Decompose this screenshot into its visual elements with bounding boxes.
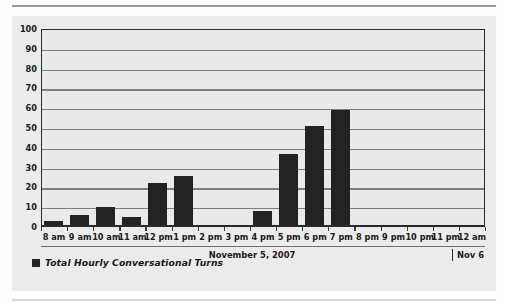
date-caption: November 5, 2007 [209, 250, 296, 260]
y-axis-tick-label: 100 [11, 25, 37, 33]
next-day-label: Nov 6 [457, 250, 484, 260]
bottom-divider-rule [12, 299, 496, 301]
bar [305, 126, 324, 227]
y-axis-tick-label: 80 [11, 64, 37, 72]
y-axis-tick-label: 60 [11, 104, 37, 112]
bars-layer [42, 30, 484, 227]
legend-swatch-icon [32, 259, 40, 267]
x-axis-tick-label: 8 pm [356, 230, 379, 244]
plot-panel [41, 29, 485, 227]
chart-footer: Total Hourly Conversational Turns Novemb… [12, 248, 496, 291]
x-axis-tick-label: 1 pm [173, 230, 196, 244]
top-divider-rule [12, 5, 496, 7]
y-axis-tick-label: 50 [11, 124, 37, 132]
bar [148, 183, 167, 227]
y-axis-tick-label: 30 [11, 163, 37, 171]
y-axis-tick-label: 70 [11, 84, 37, 92]
y-axis-tick-label: 40 [11, 144, 37, 152]
next-day-separator [452, 249, 453, 261]
chart-page: 1009080706050403020100 8 am9 am10 am11 a… [0, 0, 507, 304]
x-axis-tick-label: 8 am [43, 230, 66, 244]
x-axis-tick-label: 12 pm [144, 230, 173, 244]
x-axis-tick-label: 10 am [92, 230, 120, 244]
x-axis-tick-label: 5 pm [278, 230, 301, 244]
y-axis-tick-labels: 1009080706050403020100 [12, 29, 39, 227]
x-axis-tick-label: 3 pm [225, 230, 248, 244]
x-axis-tick-label: 6 pm [304, 230, 327, 244]
x-axis-tick-label: 11 am [118, 230, 146, 244]
bar-chart-figure: 1009080706050403020100 8 am9 am10 am11 a… [12, 16, 496, 291]
y-axis-tick-label: 0 [11, 223, 37, 231]
x-axis-tick-label: 9 am [69, 230, 92, 244]
x-axis-tick-label: 7 pm [330, 230, 353, 244]
x-axis-tick-label: 12 am [458, 230, 486, 244]
plot-area-wrapper: 1009080706050403020100 8 am9 am10 am11 a… [12, 16, 496, 241]
y-axis-tick-label: 90 [11, 45, 37, 53]
y-axis-tick-label: 10 [11, 203, 37, 211]
x-axis-tick-label: 2 pm [199, 230, 222, 244]
x-axis-tick-labels: 8 am9 am10 am11 am12 pm1 pm2 pm3 pm4 pm5… [41, 230, 485, 244]
x-axis-tick-label: 11 pm [431, 230, 460, 244]
bar [174, 176, 193, 227]
legend-item-label: Total Hourly Conversational Turns [45, 257, 223, 268]
x-axis-tick-label: 10 pm [405, 230, 434, 244]
bar [96, 207, 115, 227]
x-axis-tick-label: 4 pm [252, 230, 275, 244]
x-axis-tick-label: 9 pm [382, 230, 405, 244]
chart-legend: Total Hourly Conversational Turns [32, 257, 223, 268]
bar [279, 154, 298, 227]
y-axis-tick-label: 20 [11, 183, 37, 191]
bar [331, 110, 350, 227]
